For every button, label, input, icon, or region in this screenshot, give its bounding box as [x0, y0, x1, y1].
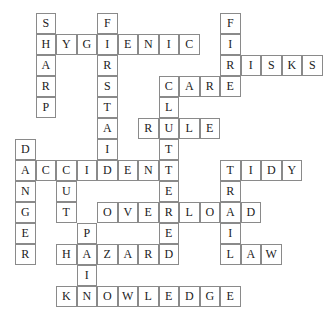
crossword-cell[interactable]: K	[282, 55, 303, 76]
crossword-cell[interactable]: R	[97, 55, 118, 76]
crossword-cell[interactable]: N	[15, 181, 36, 202]
crossword-cell[interactable]: L	[159, 97, 180, 118]
crossword-cell[interactable]: T	[159, 139, 180, 160]
crossword-cell[interactable]: A	[77, 244, 98, 265]
crossword-cell[interactable]: E	[220, 286, 241, 307]
crossword-cell[interactable]: O	[200, 202, 221, 223]
cell-letter: C	[42, 163, 50, 178]
crossword-cell[interactable]: U	[159, 118, 180, 139]
crossword-cell[interactable]: H	[36, 34, 57, 55]
crossword-cell[interactable]: E	[159, 181, 180, 202]
crossword-cell[interactable]: P	[36, 97, 57, 118]
crossword-cell[interactable]: L	[220, 244, 241, 265]
crossword-cell[interactable]: A	[179, 76, 200, 97]
cell-letter: A	[185, 79, 194, 94]
crossword-cell[interactable]: S	[261, 55, 282, 76]
crossword-cell[interactable]: G	[77, 34, 98, 55]
cell-letter: A	[41, 58, 50, 73]
crossword-cell[interactable]: W	[261, 244, 282, 265]
cell-letter: Y	[287, 163, 296, 178]
crossword-cell[interactable]: T	[56, 202, 77, 223]
cell-letter: T	[63, 205, 70, 220]
crossword-cell[interactable]: C	[159, 76, 180, 97]
crossword-cell[interactable]: E	[138, 202, 159, 223]
crossword-cell[interactable]: R	[138, 118, 159, 139]
crossword-cell[interactable]: C	[56, 160, 77, 181]
crossword-cell[interactable]: I	[97, 139, 118, 160]
crossword-cell[interactable]: N	[77, 286, 98, 307]
crossword-cell[interactable]: R	[15, 244, 36, 265]
crossword-cell[interactable]: E	[220, 76, 241, 97]
crossword-cell[interactable]: Y	[282, 160, 303, 181]
crossword-cell[interactable]: P	[77, 223, 98, 244]
crossword-cell[interactable]: F	[97, 13, 118, 34]
cell-letter: D	[164, 247, 173, 262]
crossword-cell[interactable]: T	[220, 160, 241, 181]
crossword-cell[interactable]: U	[56, 181, 77, 202]
crossword-cell[interactable]: A	[15, 160, 36, 181]
crossword-cell[interactable]: E	[159, 223, 180, 244]
crossword-cell[interactable]: C	[179, 34, 200, 55]
crossword-cell[interactable]: G	[200, 286, 221, 307]
crossword-cell[interactable]: I	[241, 55, 262, 76]
crossword-cell[interactable]: D	[261, 160, 282, 181]
cell-letter: E	[227, 79, 234, 94]
crossword-cell[interactable]: I	[77, 160, 98, 181]
cell-letter: U	[164, 121, 173, 136]
cell-letter: T	[104, 100, 111, 115]
crossword-cell[interactable]: D	[97, 160, 118, 181]
crossword-cell[interactable]: I	[159, 34, 180, 55]
crossword-cell[interactable]: R	[138, 244, 159, 265]
crossword-cell[interactable]: E	[118, 160, 139, 181]
crossword-cell[interactable]: E	[200, 118, 221, 139]
crossword-cell[interactable]: E	[159, 286, 180, 307]
crossword-cell[interactable]: V	[118, 202, 139, 223]
crossword-cell[interactable]: W	[118, 286, 139, 307]
cell-letter: R	[226, 58, 234, 73]
cell-letter: G	[21, 205, 30, 220]
crossword-cell[interactable]: L	[138, 286, 159, 307]
crossword-cell[interactable]: R	[220, 181, 241, 202]
crossword-cell[interactable]: C	[36, 160, 57, 181]
crossword-cell[interactable]: R	[159, 202, 180, 223]
crossword-cell[interactable]: O	[97, 202, 118, 223]
crossword-cell[interactable]: K	[56, 286, 77, 307]
crossword-cell[interactable]: D	[15, 139, 36, 160]
crossword-cell[interactable]: I	[77, 265, 98, 286]
crossword-cell[interactable]: I	[220, 34, 241, 55]
crossword-cell[interactable]: L	[179, 202, 200, 223]
crossword-cell[interactable]: D	[179, 286, 200, 307]
crossword-cell[interactable]: R	[36, 76, 57, 97]
crossword-cell[interactable]: A	[36, 55, 57, 76]
crossword-cell[interactable]: Y	[56, 34, 77, 55]
crossword-cell[interactable]: L	[179, 118, 200, 139]
cell-letter: I	[85, 268, 89, 283]
crossword-cell[interactable]: T	[159, 160, 180, 181]
cell-letter: F	[227, 16, 234, 31]
crossword-cell[interactable]: D	[241, 202, 262, 223]
crossword-cell[interactable]: R	[200, 76, 221, 97]
crossword-cell[interactable]: N	[138, 34, 159, 55]
crossword-cell[interactable]: A	[220, 202, 241, 223]
crossword-cell[interactable]: D	[159, 244, 180, 265]
crossword-cell[interactable]: F	[220, 13, 241, 34]
crossword-cell[interactable]: I	[220, 223, 241, 244]
crossword-cell[interactable]: A	[97, 118, 118, 139]
crossword-cell[interactable]: N	[138, 160, 159, 181]
crossword-cell[interactable]: S	[36, 13, 57, 34]
crossword-cell[interactable]: O	[97, 286, 118, 307]
crossword-cell[interactable]: S	[302, 55, 323, 76]
crossword-cell[interactable]: R	[220, 55, 241, 76]
crossword-cell[interactable]: H	[56, 244, 77, 265]
crossword-cell[interactable]: E	[15, 223, 36, 244]
crossword-cell[interactable]: I	[97, 34, 118, 55]
crossword-cell[interactable]: A	[241, 244, 262, 265]
cell-letter: D	[185, 289, 194, 304]
crossword-cell[interactable]: E	[118, 34, 139, 55]
crossword-cell[interactable]: A	[118, 244, 139, 265]
crossword-cell[interactable]: Z	[97, 244, 118, 265]
crossword-cell[interactable]: G	[15, 202, 36, 223]
crossword-cell[interactable]: S	[97, 76, 118, 97]
crossword-cell[interactable]: I	[241, 160, 262, 181]
crossword-cell[interactable]: T	[97, 97, 118, 118]
